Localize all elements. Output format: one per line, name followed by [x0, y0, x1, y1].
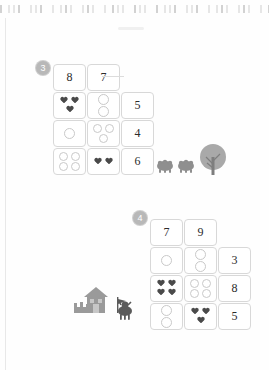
exercise-number-badge-3: 3 — [36, 61, 50, 75]
header-cell-spacer — [218, 219, 251, 246]
shape-cluster — [57, 94, 83, 117]
header-tick-mark — [65, 5, 67, 13]
row-left-shapes[interactable] — [53, 148, 86, 175]
hedgehog-group-left — [157, 160, 173, 173]
header-tick-mark — [226, 5, 228, 13]
row-right-shapes[interactable] — [184, 275, 217, 302]
row-left-shapes[interactable] — [150, 247, 183, 274]
page-header-tick-strip — [0, 0, 269, 18]
header-cell-left[interactable]: 8 — [53, 64, 86, 91]
header-tick-mark — [164, 5, 166, 13]
circle-icon — [64, 128, 75, 139]
shape-cluster — [91, 150, 117, 173]
heart-icon — [197, 317, 205, 325]
circle-icon — [161, 305, 172, 316]
circle-icon — [98, 94, 109, 105]
shape-cluster — [188, 305, 214, 328]
exercise-3-header-row: 8 7 — [53, 64, 155, 92]
exercise-3-grid: 8 7 5 4 — [53, 64, 155, 176]
row-left-shapes[interactable] — [150, 275, 183, 302]
heart-icon — [191, 308, 199, 316]
header-tick-mark — [243, 5, 245, 13]
header-cell-right[interactable]: 9 — [184, 219, 217, 246]
row-right-shapes[interactable] — [184, 247, 217, 274]
header-tick-mark — [35, 5, 37, 13]
shape-cluster — [91, 94, 117, 117]
table-row: 5 — [53, 92, 155, 120]
heart-icon — [94, 158, 102, 166]
header-tick-mark — [144, 5, 146, 13]
circle-icon — [161, 317, 172, 328]
circle-icon — [99, 134, 108, 143]
heart-icon — [157, 280, 165, 288]
scan-smudge — [118, 27, 144, 30]
header-tick-mark — [70, 5, 72, 13]
heart-icon — [157, 289, 165, 297]
header-tick-mark — [40, 5, 42, 13]
row-right-shapes[interactable] — [87, 92, 120, 119]
row-left-shapes[interactable] — [150, 303, 183, 330]
knight-on-horse-icon — [117, 297, 132, 320]
heart-icon — [105, 158, 113, 166]
header-tick-mark — [92, 5, 94, 13]
circle-icon — [93, 124, 102, 133]
row-left-shapes[interactable] — [53, 92, 86, 119]
row-left-shapes[interactable] — [53, 120, 86, 147]
circle-icon — [202, 279, 211, 288]
circle-icon — [71, 162, 80, 171]
exercise-4-header-row: 7 9 — [150, 219, 252, 247]
header-tick-mark — [208, 5, 210, 13]
tree-icon — [200, 144, 226, 175]
header-tick-mark — [248, 5, 250, 13]
header-tick-mark — [134, 5, 136, 13]
row-answer[interactable]: 5 — [121, 92, 154, 119]
header-tick-mark — [238, 5, 240, 13]
header-value-left: 8 — [67, 70, 73, 85]
header-tick-mark — [18, 5, 20, 13]
row-answer[interactable]: 5 — [218, 303, 251, 330]
shape-cluster — [155, 277, 179, 300]
hedgehog-group-right — [178, 160, 194, 173]
answer-value: 6 — [135, 154, 141, 169]
circle-icon — [59, 152, 68, 161]
row-answer[interactable]: 3 — [218, 247, 251, 274]
header-tick-mark — [156, 5, 158, 13]
header-tick-mark — [122, 5, 124, 13]
heart-icon — [202, 308, 210, 316]
header-value-right: 9 — [198, 225, 204, 240]
header-tick-mark — [87, 5, 89, 13]
shape-cluster — [58, 150, 82, 173]
answer-value: 3 — [232, 253, 238, 268]
header-tick-mark — [268, 5, 269, 13]
shape-cluster — [189, 277, 213, 300]
header-tick-mark — [60, 5, 62, 13]
header-cell-right[interactable]: 7 — [87, 64, 120, 91]
row-right-shapes[interactable] — [87, 120, 120, 147]
row-answer[interactable]: 6 — [121, 148, 154, 175]
table-row: 6 — [53, 148, 155, 176]
answer-value: 5 — [135, 98, 141, 113]
answer-value: 5 — [232, 309, 238, 324]
header-tick-mark — [139, 5, 141, 13]
heart-icon — [168, 289, 176, 297]
page-binding-line — [5, 18, 6, 370]
castle-icon — [74, 287, 108, 313]
header-tick-mark — [117, 5, 119, 13]
row-right-shapes[interactable] — [87, 148, 120, 175]
heart-icon — [168, 280, 176, 288]
illustration-svg — [156, 144, 230, 180]
shape-cluster — [188, 249, 214, 272]
row-right-shapes[interactable] — [184, 303, 217, 330]
circle-icon — [190, 279, 199, 288]
header-tick-mark — [13, 5, 15, 13]
row-answer[interactable]: 4 — [121, 120, 154, 147]
header-value-left: 7 — [164, 225, 170, 240]
row-answer[interactable]: 8 — [218, 275, 251, 302]
exercise-number-badge-4: 4 — [133, 211, 147, 225]
circle-icon — [105, 124, 114, 133]
circle-icon — [190, 289, 199, 298]
shape-cluster — [154, 305, 180, 328]
header-cell-left[interactable]: 7 — [150, 219, 183, 246]
circle-icon — [59, 162, 68, 171]
header-tick-mark — [52, 5, 54, 13]
